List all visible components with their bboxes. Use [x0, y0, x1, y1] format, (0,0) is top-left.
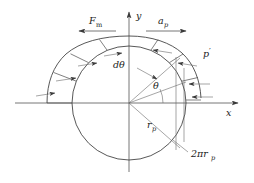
pressure-arrow	[104, 53, 122, 56]
pressure-arrow	[178, 63, 197, 66]
pressure-label-group: p ′	[203, 46, 211, 59]
x-axis-label: x	[226, 107, 232, 118]
pressure-label-prime: ′	[209, 46, 211, 55]
force-label-group: F m	[88, 15, 103, 29]
figure-container: y x F m a p p ′ dθ θ r p 2πr p	[0, 0, 254, 183]
pressure-tick	[151, 40, 158, 51]
circumference-leader-line	[173, 140, 188, 152]
radius-label-group: r p	[147, 119, 157, 133]
pressure-tick	[71, 54, 89, 63]
technical-diagram-svg: y x F m a p p ′ dθ θ r p 2πr p	[0, 0, 254, 183]
circumference-label-subscript: p	[211, 154, 216, 162]
theta-label: θ	[153, 80, 159, 91]
circumference-label-group: 2πr p	[190, 148, 216, 162]
pressure-tick	[100, 40, 108, 51]
force-label-subscript: m	[96, 21, 103, 29]
dtheta-leader-line	[137, 68, 157, 79]
circumference-label: 2πr	[190, 148, 209, 159]
pressure-arrow	[36, 93, 55, 96]
acceleration-label-subscript: p	[164, 21, 169, 29]
y-axis-label: y	[135, 10, 142, 21]
force-label: F	[88, 15, 96, 26]
pressure-arrow	[56, 78, 76, 81]
pressure-ticks-left	[36, 40, 122, 104]
projection-chord-lines	[176, 57, 184, 150]
acceleration-label-group: a p	[158, 15, 169, 29]
radius-label-subscript: p	[152, 125, 157, 133]
dtheta-label: dθ	[113, 59, 125, 70]
